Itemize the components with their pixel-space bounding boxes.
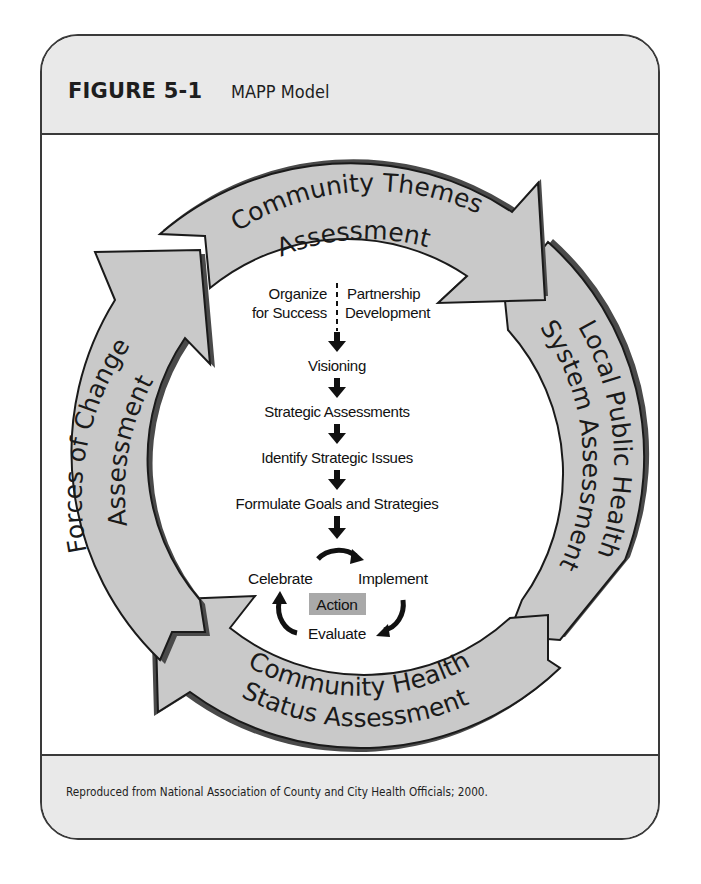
action-cycle: Celebrate Implement Action Evaluate xyxy=(248,549,429,642)
cycle-arrow-left-icon xyxy=(279,602,297,633)
down-arrow-icon xyxy=(328,424,346,444)
step-strategic-assessments: Strategic Assessments xyxy=(264,403,409,420)
cycle-implement: Implement xyxy=(358,570,429,587)
phase-organize-2: for Success xyxy=(252,304,327,321)
step-visioning: Visioning xyxy=(308,357,366,374)
down-arrow-icon xyxy=(328,332,346,352)
cycle-action: Action xyxy=(316,596,357,613)
mapp-diagram: Community Themes Assessment Local Public… xyxy=(0,0,701,884)
down-arrow-icon xyxy=(328,378,346,398)
step-identify-issues: Identify Strategic Issues xyxy=(261,449,413,466)
phase-organize: Organize xyxy=(269,285,327,302)
arrow-forces-of-change xyxy=(71,250,215,664)
cycle-evaluate: Evaluate xyxy=(308,625,366,642)
down-arrow-icon xyxy=(328,470,346,490)
cycle-arrow-top-icon xyxy=(318,550,356,559)
central-flow: Organize for Success Partnership Develop… xyxy=(236,283,439,539)
step-formulate-goals: Formulate Goals and Strategies xyxy=(236,495,439,512)
phase-partnership: Partnership xyxy=(347,285,420,302)
cycle-celebrate: Celebrate xyxy=(248,570,313,587)
phase-partnership-2: Development xyxy=(345,304,431,321)
down-arrow-icon xyxy=(328,516,346,539)
